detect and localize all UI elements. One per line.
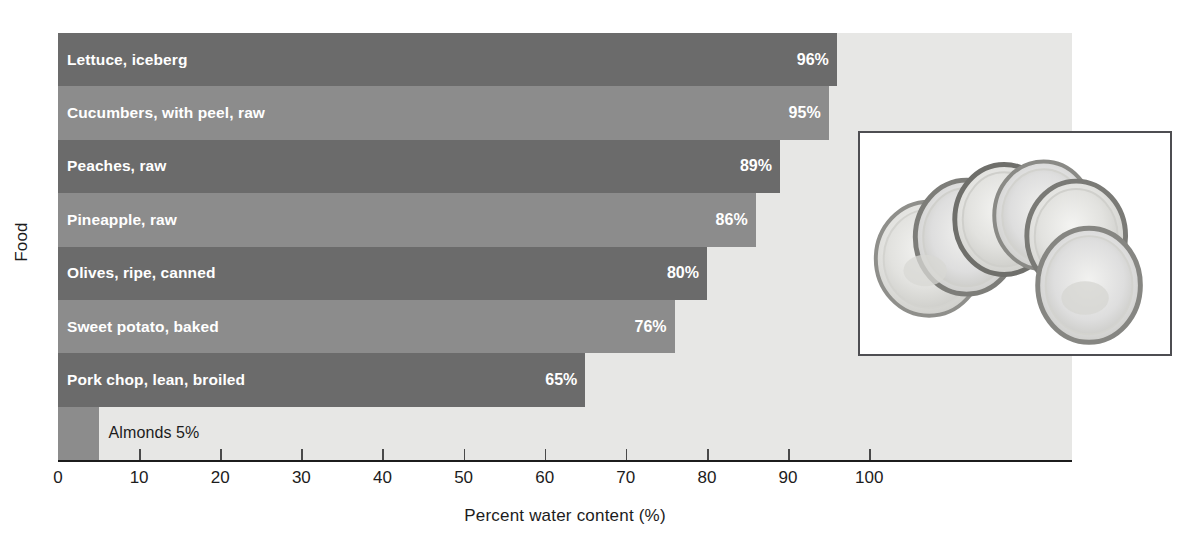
bar-value-label: 96%: [797, 51, 829, 69]
bar-category-label: Sweet potato, baked: [67, 318, 219, 336]
x-axis-tick-label: 50: [454, 468, 473, 488]
bar-category-label: Almonds 5%: [109, 424, 200, 442]
bar-value-label: 65%: [545, 371, 577, 389]
x-axis-tick-label: 0: [53, 468, 62, 488]
x-axis-tick: [788, 449, 790, 460]
bar-category-label: Peaches, raw: [67, 157, 166, 175]
x-axis-tick-label: 70: [616, 468, 635, 488]
bar-value-label: 80%: [667, 264, 699, 282]
x-axis-tick-label: 30: [292, 468, 311, 488]
x-axis-tick-label: 20: [211, 468, 230, 488]
x-axis-tick: [626, 449, 628, 460]
x-axis-tick-label: 80: [697, 468, 716, 488]
y-axis-title: Food: [12, 202, 32, 282]
x-axis-tick-label: 90: [779, 468, 798, 488]
x-axis-tick: [545, 449, 547, 460]
bar-category-label: Olives, ripe, canned: [67, 264, 215, 282]
bar-value-label: 76%: [634, 318, 666, 336]
bar-row: Almonds 5%: [58, 407, 1072, 460]
cucumber-slices-illustration: [860, 133, 1170, 354]
x-axis-tick: [707, 449, 709, 460]
bar-category-label: Pork chop, lean, broiled: [67, 371, 245, 389]
x-axis-tick-label: 100: [855, 468, 883, 488]
bar-category-label: Lettuce, iceberg: [67, 51, 187, 69]
x-axis-tick: [464, 449, 466, 460]
x-axis-tick-label: 40: [373, 468, 392, 488]
bar-row: Pork chop, lean, broiled65%: [58, 353, 1072, 406]
x-axis-tick: [139, 449, 141, 460]
x-axis-line: [58, 460, 1072, 462]
bar-category-label: Pineapple, raw: [67, 211, 177, 229]
x-axis-tick-label: 10: [130, 468, 149, 488]
x-axis-title: Percent water content (%): [58, 506, 1072, 526]
bar-row: Lettuce, iceberg96%: [58, 33, 1072, 86]
x-axis-tick: [382, 449, 384, 460]
x-axis-tick: [301, 449, 303, 460]
x-axis-tick: [220, 449, 222, 460]
bar: [58, 407, 99, 460]
bar-value-label: 86%: [716, 211, 748, 229]
x-axis-tick-label: 60: [535, 468, 554, 488]
x-axis-tick: [869, 449, 871, 460]
cucumber-slices-photo: [858, 131, 1172, 356]
bar-value-label: 89%: [740, 157, 772, 175]
bar-value-label: 95%: [789, 104, 821, 122]
water-content-bar-chart: Food Lettuce, iceberg96%Cucumbers, with …: [0, 0, 1192, 557]
bar-category-label: Cucumbers, with peel, raw: [67, 104, 265, 122]
